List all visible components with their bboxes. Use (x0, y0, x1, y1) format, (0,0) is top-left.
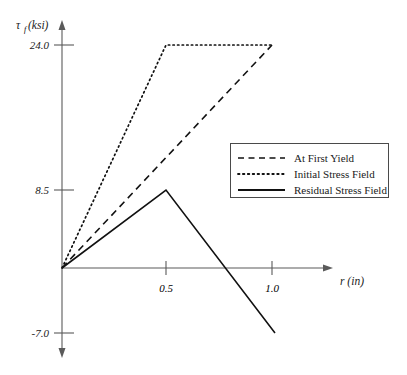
stress-field-chart-figure: 24.0 8.5 -7.0 0.5 1.0 τ f (ksi) r (in) (0, 0, 407, 375)
x-axis-arrow-right (323, 265, 333, 272)
chart-plot-area: 24.0 8.5 -7.0 0.5 1.0 τ f (ksi) r (in) (0, 0, 407, 375)
chart-legend: At First Yield Initial Stress Field Resi… (231, 144, 389, 198)
legend-label-at-first-yield: At First Yield (294, 152, 355, 164)
x-axis-ticks: 0.5 1.0 (159, 261, 279, 294)
y-axis-title-unit: (ksi) (28, 19, 49, 32)
y-tick-label-24: 24.0 (30, 39, 50, 51)
y-axis-title-symbol: τ (16, 19, 21, 31)
legend-label-residual-stress-field: Residual Stress Field (294, 184, 387, 196)
y-tick-label-neg7: -7.0 (32, 327, 50, 339)
y-axis-ticks: 24.0 8.5 -7.0 (30, 39, 74, 339)
y-axis-arrow-down (59, 348, 66, 358)
legend-label-initial-stress-field: Initial Stress Field (294, 168, 375, 180)
x-tick-label-0-5: 0.5 (159, 282, 173, 294)
x-tick-label-1-0: 1.0 (265, 282, 279, 294)
x-axis-title: r (in) (340, 275, 364, 288)
y-axis-arrow-up (59, 20, 66, 30)
series-residual-stress-field (62, 190, 275, 333)
y-tick-label-8-5: 8.5 (35, 184, 49, 196)
